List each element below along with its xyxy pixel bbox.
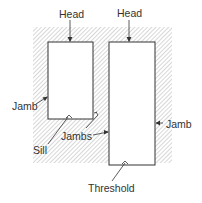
label-jamb-right: Jamb (166, 119, 192, 130)
label-threshold: Threshold (88, 183, 135, 194)
label-sill: Sill (33, 145, 47, 156)
label-jambs: Jambs (61, 131, 92, 142)
label-head-right: Head (117, 8, 142, 19)
door-opening (109, 42, 155, 165)
window-opening (48, 42, 93, 119)
label-jamb-left: Jamb (12, 101, 38, 112)
label-head-left: Head (59, 9, 84, 20)
